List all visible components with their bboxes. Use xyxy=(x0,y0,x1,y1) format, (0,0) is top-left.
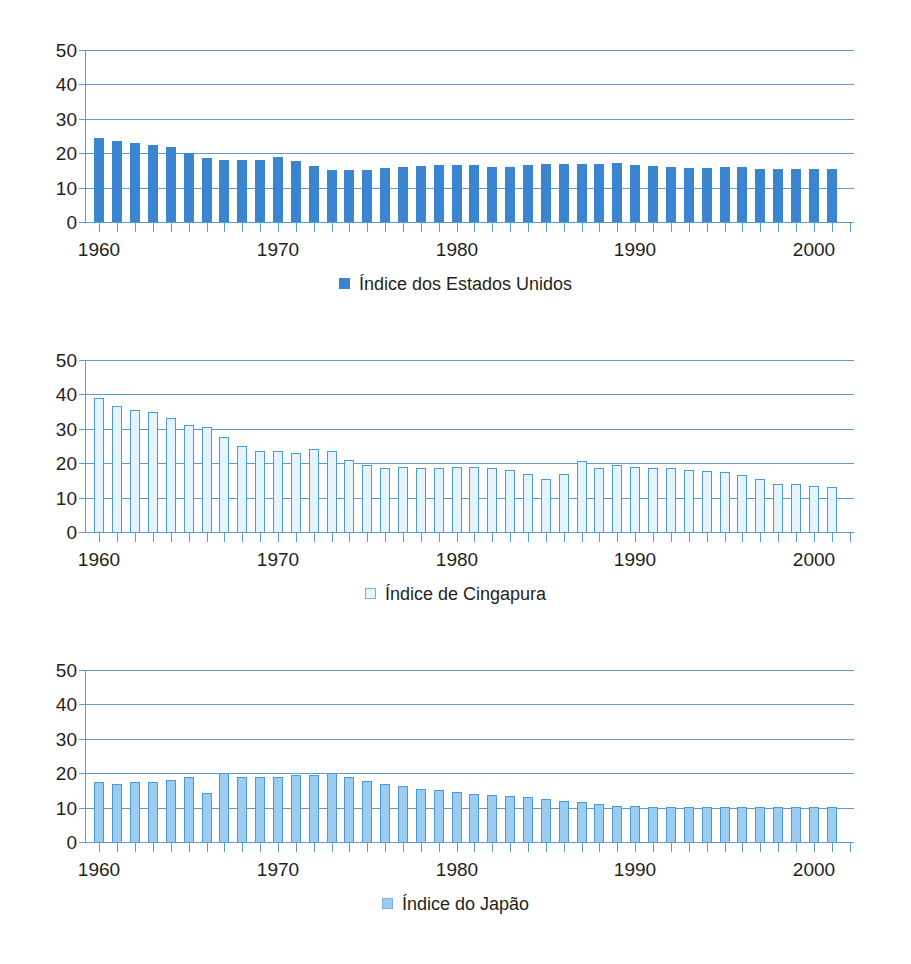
x-tick-mark xyxy=(635,533,636,542)
y-tick-label: 10 xyxy=(56,178,77,197)
bar xyxy=(594,164,604,222)
y-tick-label: 30 xyxy=(56,729,77,748)
bar xyxy=(362,170,372,222)
x-tick-mark xyxy=(99,843,100,852)
x-tick-mark xyxy=(474,843,475,852)
bar xyxy=(487,167,497,222)
bar xyxy=(648,166,658,222)
x-tick-mark xyxy=(296,223,297,232)
x-tick-mark xyxy=(689,843,690,852)
bar-series-us xyxy=(86,50,854,222)
y-tick-label: 50 xyxy=(56,41,77,60)
x-tick-mark xyxy=(510,223,511,232)
bar xyxy=(612,806,622,842)
x-tick-mark xyxy=(99,223,100,232)
bar xyxy=(112,406,122,532)
x-tick-mark xyxy=(832,223,833,232)
x-tick-mark xyxy=(278,843,279,852)
bar xyxy=(666,807,676,842)
x-tick-mark xyxy=(796,533,797,542)
x-tick-mark xyxy=(832,533,833,542)
bar xyxy=(791,169,801,222)
x-tick-mark xyxy=(260,533,261,542)
chart-panel-us: 01020304050 19601970198019902000 Índice … xyxy=(0,0,911,320)
x-tick-mark xyxy=(117,533,118,542)
bar xyxy=(469,467,479,532)
y-tick-label: 30 xyxy=(56,109,77,128)
x-tick-label: 1980 xyxy=(436,860,478,880)
x-tick-mark xyxy=(474,223,475,232)
x-tick-mark xyxy=(457,223,458,232)
bar xyxy=(452,467,462,532)
x-tick-label: 2000 xyxy=(793,860,835,880)
bar xyxy=(130,143,140,222)
bar xyxy=(166,147,176,222)
bar xyxy=(344,777,354,842)
plot-inner-us: 01020304050 19601970198019902000 xyxy=(86,50,854,222)
bar xyxy=(487,795,497,842)
x-tick-mark xyxy=(332,843,333,852)
x-tick-mark xyxy=(582,843,583,852)
x-tick-mark xyxy=(153,843,154,852)
x-tick-mark xyxy=(528,533,529,542)
bar xyxy=(755,807,765,842)
bar xyxy=(612,465,622,532)
bar xyxy=(648,807,658,842)
x-tick-mark xyxy=(582,533,583,542)
bar xyxy=(720,807,730,842)
bar xyxy=(255,451,265,532)
x-tick-label: 1960 xyxy=(78,860,120,880)
bar xyxy=(541,164,551,222)
bar xyxy=(166,780,176,842)
x-tick-mark xyxy=(742,533,743,542)
x-axis-spine-us xyxy=(85,222,854,223)
legend-us: Índice dos Estados Unidos xyxy=(0,272,911,295)
bar xyxy=(773,807,783,842)
bar xyxy=(505,470,515,532)
bar xyxy=(577,461,587,532)
x-tick-mark xyxy=(617,533,618,542)
x-tick-mark xyxy=(242,223,243,232)
x-tick-mark xyxy=(224,223,225,232)
x-tick-label: 1960 xyxy=(78,550,120,570)
y-tick-label: 10 xyxy=(56,488,77,507)
bar xyxy=(291,453,301,532)
x-tick-mark xyxy=(242,533,243,542)
bar-series-jp xyxy=(86,670,854,842)
plot-inner-jp: 01020304050 19601970198019902000 xyxy=(86,670,854,842)
x-tick-mark xyxy=(153,223,154,232)
x-tick-mark xyxy=(367,533,368,542)
y-tick-label: 0 xyxy=(66,213,77,232)
x-tick-mark xyxy=(439,843,440,852)
x-tick-mark xyxy=(385,223,386,232)
x-tick-mark xyxy=(99,533,100,542)
plot-area-jp: 01020304050 19601970198019902000 xyxy=(86,670,854,842)
bar xyxy=(344,460,354,532)
bar xyxy=(273,777,283,842)
bar xyxy=(737,167,747,222)
bar xyxy=(737,807,747,842)
x-tick-mark xyxy=(492,843,493,852)
x-tick-mark xyxy=(260,843,261,852)
bar-series-sg xyxy=(86,360,854,532)
x-tick-label: 1990 xyxy=(614,860,656,880)
x-tick-mark xyxy=(635,843,636,852)
x-tick-mark xyxy=(224,843,225,852)
x-tick-mark xyxy=(546,223,547,232)
bar xyxy=(577,802,587,842)
bar xyxy=(559,474,569,532)
bar xyxy=(219,437,229,532)
bar xyxy=(594,468,604,532)
plot-area-us: 01020304050 19601970198019902000 xyxy=(86,50,854,222)
bar xyxy=(505,167,515,222)
x-tick-mark xyxy=(689,533,690,542)
x-tick-mark xyxy=(385,533,386,542)
x-tick-mark xyxy=(207,223,208,232)
x-tick-mark xyxy=(725,533,726,542)
x-tick-mark xyxy=(349,843,350,852)
bar xyxy=(184,425,194,532)
bar xyxy=(112,784,122,842)
bar xyxy=(523,474,533,532)
x-tick-mark xyxy=(367,843,368,852)
x-tick-mark xyxy=(421,223,422,232)
